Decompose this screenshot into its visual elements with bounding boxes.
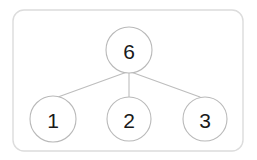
node-whole[interactable]: 6 [106,27,152,73]
whole-value: 6 [123,40,135,63]
node-part-2[interactable]: 2 [107,97,151,141]
node-part-1[interactable]: 1 [30,96,76,142]
part-3-value: 3 [199,109,211,132]
number-bond-canvas: 6 1 2 3 [0,0,257,160]
part-2-value: 2 [123,109,135,132]
node-part-3[interactable]: 3 [183,97,227,141]
number-bond-diagram: 6 1 2 3 [0,0,257,160]
part-1-value: 1 [47,109,59,132]
